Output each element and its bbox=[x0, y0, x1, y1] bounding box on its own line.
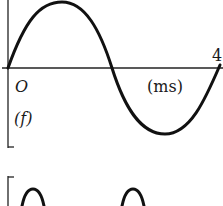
hump-2 bbox=[122, 189, 144, 206]
tick-label-4: 4 bbox=[212, 46, 222, 65]
bottom-graph bbox=[8, 176, 144, 206]
unit-label: (ms) bbox=[147, 77, 183, 96]
hump-1 bbox=[22, 189, 44, 206]
waveform-figure: O (ms) 4 (f) bbox=[0, 0, 223, 206]
top-graph: O (ms) 4 (f) bbox=[2, 0, 223, 148]
origin-label: O bbox=[15, 77, 28, 96]
panel-label: (f) bbox=[14, 109, 32, 128]
